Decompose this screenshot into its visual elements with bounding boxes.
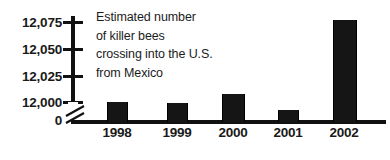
y-tick-label-12000: 12,000	[22, 96, 62, 110]
annotation-line-3: crossing into the U.S.	[96, 45, 281, 64]
x-tick-label-2000: 2000	[203, 126, 263, 140]
x-tick-label-2001: 2001	[258, 126, 318, 140]
y-axis-labels: 12,075 12,050 12,025 12,000 0	[0, 0, 62, 160]
y-tick-label-12025: 12,025	[22, 70, 62, 84]
bar-2000	[222, 94, 245, 122]
annotation-line-4: from Mexico	[96, 64, 281, 83]
bar-2002	[333, 20, 357, 122]
x-tick-label-1999: 1999	[147, 126, 207, 140]
x-axis-labels: 1998 1999 2000 2001 2002	[71, 126, 386, 150]
x-tick-label-1998: 1998	[87, 126, 147, 140]
annotation-line-2: of killer bees	[96, 27, 281, 46]
bar-1998	[107, 102, 128, 122]
annotation-line-1: Estimated number	[96, 8, 281, 27]
chart-annotation: Estimated number of killer bees crossing…	[96, 8, 281, 82]
bar-1999	[167, 103, 188, 122]
x-tick-label-2002: 2002	[314, 126, 374, 140]
bar-chart: 12,075 12,050 12,025 12,000 0 1998 1999 …	[0, 0, 390, 160]
y-tick-label-12050: 12,050	[22, 43, 62, 57]
y-tick-label-12075: 12,075	[22, 16, 62, 30]
bar-2001	[278, 110, 299, 122]
